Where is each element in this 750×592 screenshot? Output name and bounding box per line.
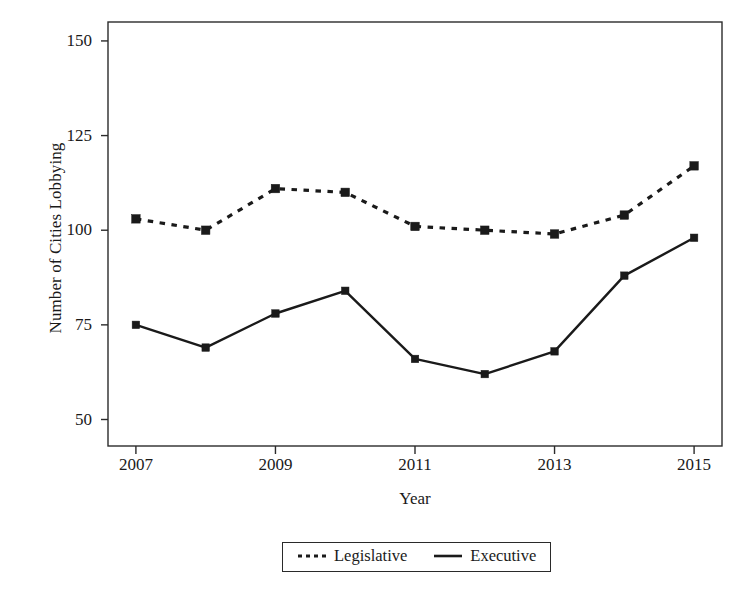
chart-legend: LegislativeExecutive (282, 542, 551, 572)
legend-swatch-dashed-icon (297, 551, 327, 561)
legend-item-legislative: Legislative (297, 548, 407, 565)
x-tick-label: 2013 (515, 455, 595, 475)
x-tick-label: 2011 (375, 455, 455, 475)
x-axis-title: Year (108, 489, 722, 509)
x-tick-label: 2009 (235, 455, 315, 475)
x-tick-label: 2007 (96, 455, 176, 475)
chart-figure: Number of Cities Lobbying 5075100125150 … (0, 0, 750, 592)
legend-label: Legislative (334, 548, 407, 565)
legend-swatch-solid-icon (433, 551, 463, 561)
x-tick-label: 2015 (654, 455, 734, 475)
legend-item-executive: Executive (433, 548, 536, 565)
legend-label: Executive (470, 548, 536, 565)
